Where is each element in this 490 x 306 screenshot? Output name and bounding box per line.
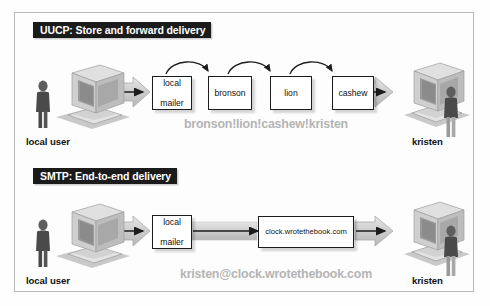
user-figure-icon (30, 218, 56, 270)
smtp-node-clock-host-label: clock.wrotethebook.com (265, 227, 346, 237)
smtp-source-label: local user (26, 275, 70, 286)
uucp-source-label: local user (26, 136, 70, 147)
uucp-dest-device (396, 55, 490, 135)
desktop-computer-icon (396, 194, 476, 272)
uucp-node-lion-label: lion (284, 88, 297, 98)
uucp-node-local-mailer[interactable]: local mailer (152, 76, 192, 110)
section-banner-uucp: UUCP: Store and forward delivery (33, 22, 211, 38)
smtp-node-clock-host[interactable]: clock.wrotethebook.com (258, 216, 354, 248)
uucp-node-bronson[interactable]: bronson (208, 76, 252, 110)
section-banner-smtp: SMTP: End-to-end delivery (33, 168, 177, 184)
figure-canvas: UUCP: Store and forward delivery (0, 0, 490, 306)
smtp-dest-label: kristen (412, 275, 443, 286)
uucp-source-device (38, 55, 134, 135)
uucp-dest-label: kristen (412, 136, 443, 147)
uucp-node-local-mailer-line1: local (160, 78, 183, 88)
smtp-source-device (38, 194, 134, 274)
user-figure-icon (30, 79, 56, 131)
smtp-node-local-mailer[interactable]: local mailer (152, 215, 192, 249)
user-figure-icon (438, 224, 464, 278)
user-figure-icon (438, 85, 464, 139)
smtp-node-local-mailer-line2: mailer (160, 237, 183, 247)
smtp-address-annotation: kristen@clock.wrotethebook.com (180, 267, 372, 281)
uucp-node-lion[interactable]: lion (270, 76, 312, 110)
desktop-computer-icon (396, 55, 476, 133)
uucp-node-cashew-label: cashew (338, 88, 367, 98)
uucp-node-cashew[interactable]: cashew (332, 76, 374, 110)
smtp-dest-device (396, 194, 490, 274)
uucp-node-local-mailer-line2: mailer (160, 98, 183, 108)
uucp-node-bronson-label: bronson (214, 88, 245, 98)
smtp-node-local-mailer-line1: local (160, 217, 183, 227)
uucp-path-annotation: bronson!lion!cashew!kristen (184, 117, 348, 131)
